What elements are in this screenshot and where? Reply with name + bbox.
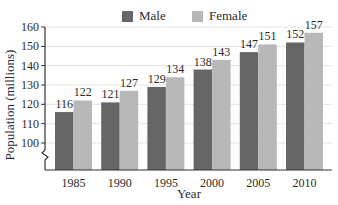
data-label: 116 (55, 97, 73, 111)
y-tick-label: 140 (21, 59, 39, 73)
data-label: 152 (286, 27, 304, 41)
data-label: 147 (240, 37, 258, 51)
y-tick-label: 120 (21, 97, 39, 111)
bar-male-2000 (194, 70, 213, 170)
bar-male-1985 (55, 112, 74, 170)
data-label: 129 (148, 72, 166, 86)
y-tick-label: 100 (21, 136, 39, 150)
x-tick-label: 2010 (293, 176, 317, 190)
y-axis-with-break (42, 27, 48, 170)
y-tick-label: 110 (21, 117, 39, 131)
x-tick-label: 2000 (200, 176, 224, 190)
bar-female-1990 (120, 91, 139, 170)
data-label: 151 (259, 29, 277, 43)
y-tick-label: 150 (21, 39, 39, 53)
data-label: 157 (305, 18, 323, 32)
y-tick-labels: 100110120130140150160 (21, 20, 39, 150)
bar-female-2005 (258, 44, 277, 170)
data-label: 143 (212, 45, 230, 59)
data-label: 122 (74, 85, 92, 99)
bar-male-2005 (240, 52, 258, 170)
bar-female-2000 (212, 60, 231, 170)
y-tick-label: 130 (21, 78, 39, 92)
bar-chart: 116122121127129134138143147151152157 100… (0, 0, 338, 205)
bar-male-2010 (286, 42, 305, 170)
y-axis-label: Population (millions) (2, 50, 17, 161)
bar-male-1995 (147, 87, 166, 170)
data-labels: 116122121127129134138143147151152157 (55, 18, 322, 111)
x-axis-label: Year (177, 186, 202, 201)
bar-female-1985 (74, 100, 93, 170)
bar-male-1990 (101, 102, 120, 170)
x-tick-label: 1995 (154, 176, 178, 190)
bar-female-2010 (305, 33, 324, 170)
data-label: 134 (166, 62, 184, 76)
data-label: 138 (194, 55, 212, 69)
x-tick-label: 1985 (62, 176, 86, 190)
x-tick-label: 1990 (108, 176, 132, 190)
data-label: 127 (120, 76, 138, 90)
bars (55, 33, 323, 170)
x-tick-label: 2005 (246, 176, 270, 190)
y-tick-label: 160 (21, 20, 39, 34)
bar-female-1995 (166, 77, 185, 170)
data-label: 121 (101, 87, 119, 101)
